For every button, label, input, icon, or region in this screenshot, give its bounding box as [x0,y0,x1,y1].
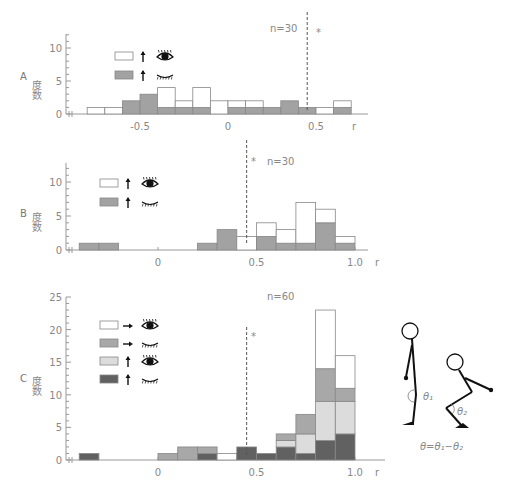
histogram-bar [335,401,355,434]
x-tick-label: 0 [225,121,231,132]
histogram-bar [335,236,355,243]
y-tick-label: 25 [49,292,62,303]
figure-histograms: A 度数 B 度数 C 度数 n=30 n=30 n=60 * * * 0510… [0,0,509,487]
theta1-label: θ₁ [423,391,433,402]
histogram-bar [87,107,105,114]
legend-swatch [115,52,133,60]
y-tick-label: 15 [49,357,62,368]
histogram-bar [158,453,178,460]
legend-swatch [100,357,118,365]
legend-item [100,355,158,367]
histogram-bar [178,447,198,460]
eye-closed-icon [142,343,158,348]
histogram-bar [316,310,336,369]
x-tick-label: 0.5 [249,467,265,478]
histogram-bar [335,434,355,460]
legend-swatch [100,198,118,206]
panel-c-star: * [251,331,256,342]
panel-a-ylabel: 度数 [31,79,42,101]
legend-item [115,50,173,62]
histogram-bar [79,243,99,250]
legend-swatch [100,321,118,329]
histogram-bar [334,101,352,108]
histogram-bar [122,101,140,114]
histogram-bar [175,101,193,108]
histogram-bar [296,414,316,434]
legend-item [115,70,173,81]
eye-closed-icon [157,75,173,80]
panel-a-n: n=30 [270,23,297,34]
y-tick-label: 0 [56,245,62,256]
histogram-bar [257,236,277,250]
y-tick-label: 20 [49,325,62,336]
stick-figure-standing [402,323,418,425]
histogram-bar [281,101,299,114]
y-tick-label: 10 [49,43,62,54]
histogram-bar [158,107,176,114]
eye-open-icon [142,177,158,187]
histogram-bar [296,202,316,243]
histogram-bar [257,453,277,460]
panel-a-star: * [316,27,321,38]
panel-b-ylabel: 度数 [31,211,42,233]
y-tick-label: 0 [56,455,62,466]
histogram-bar [316,107,334,114]
histogram-bar [257,223,277,237]
histogram-bar [316,440,336,460]
eye-open-icon [142,319,158,329]
histogram-bar [237,236,257,250]
histogram-bar [105,107,123,114]
histogram-bar [158,88,176,108]
histogram-bar [334,107,352,114]
panel-b-label: B [20,208,27,219]
histogram-bar [197,447,217,454]
eye-open-icon [157,50,173,60]
panel-c-label: C [20,373,27,384]
histogram-bar [217,230,237,250]
eye-closed-icon [142,379,158,384]
histogram-bar [276,447,296,460]
panel-b-n: n=30 [267,156,294,167]
panel-b-star: * [251,156,256,167]
legend-item [100,197,158,208]
histogram-bar [175,107,193,114]
legend-item [100,319,158,329]
x-axis-label: r [352,121,357,132]
histogram-bar [335,356,355,389]
panel-c-ylabel: 度数 [31,375,42,397]
x-axis-label: r [375,467,380,478]
y-tick-label: 10 [49,390,62,401]
histogram-bar [276,243,296,250]
x-axis-label: r [375,257,380,268]
y-tick-label: 5 [56,211,62,222]
legend-swatch [100,339,118,347]
x-tick-label: 0.5 [249,257,265,268]
panel-b-plot: 051000.51.0r [49,140,380,268]
legend-swatch [100,179,118,187]
legend-item [100,374,158,385]
histogram-bar [246,107,264,114]
histogram-bar [276,434,296,441]
histogram-bar [263,107,281,114]
histogram-bar [276,440,296,447]
histogram-bar [335,243,355,250]
x-tick-label: 1.0 [347,257,363,268]
panel-a-label: A [20,71,27,82]
histogram-bar [316,369,336,402]
histogram-bar [296,434,316,454]
histogram-bar [197,243,217,250]
histogram-bar [140,94,158,114]
x-tick-label: 0 [155,257,161,268]
histogram-bar [316,223,336,250]
y-tick-label: 5 [56,422,62,433]
histogram-bar [193,107,211,114]
stick-figure-squatting [446,354,493,428]
panel-c-n: n=60 [267,291,294,302]
histogram-bar [296,243,316,250]
x-tick-label: 0.5 [308,121,324,132]
histogram-bar [99,243,119,250]
theta-formula: θ=θ₁−θ₂ [420,441,463,452]
histogram-bar [276,230,296,244]
histogram-bar [79,453,99,460]
y-tick-label: 10 [49,177,62,188]
